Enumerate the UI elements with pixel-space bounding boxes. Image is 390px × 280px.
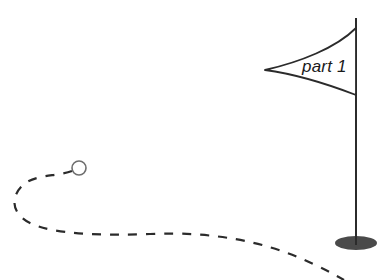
golf-ball-icon — [72, 161, 86, 175]
flag-label-text: part 1 — [301, 57, 347, 76]
golf-scene-svg: part 1 — [0, 0, 390, 280]
ball-trajectory-path — [14, 171, 344, 280]
illustration-canvas: part 1 — [0, 0, 390, 280]
